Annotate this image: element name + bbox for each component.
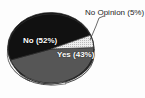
no-opinion-leader-line xyxy=(90,16,104,40)
pie-chart-figure: No (52%) Yes (43%) No Opinion (5%) xyxy=(0,0,145,98)
pie-chart-canvas xyxy=(0,0,145,98)
